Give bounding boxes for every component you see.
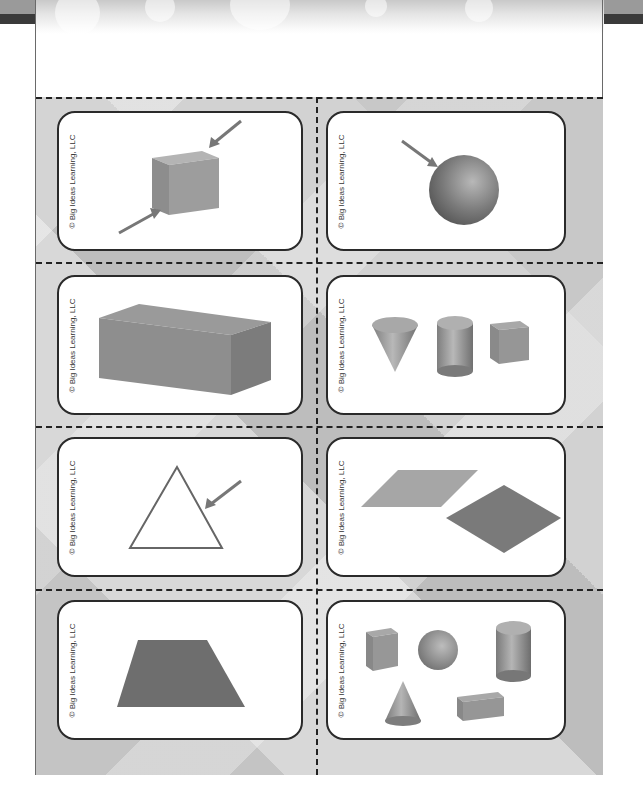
card-rectangular-prism: © Big Ideas Learning, LLC <box>57 275 303 415</box>
cube-vertex-icon <box>59 113 303 251</box>
cut-line-row-3 <box>36 589 603 591</box>
card-sphere-surface: © Big Ideas Learning, LLC <box>326 111 566 251</box>
rhombus-pair-icon <box>328 439 566 577</box>
cut-line-row-1 <box>36 262 603 264</box>
trapezoid-icon <box>59 602 303 740</box>
sphere-surface-icon <box>328 113 566 251</box>
triangle-side-icon <box>59 439 303 577</box>
card-cube-vertices: © Big Ideas Learning, LLC <box>57 111 303 251</box>
right-edge-tab <box>604 0 643 24</box>
three-solids-icon <box>328 277 566 415</box>
card-three-solids: © Big Ideas Learning, LLC <box>326 275 566 415</box>
card-five-solids: © Big Ideas Learning, LLC <box>326 600 566 740</box>
card-triangle-side: © Big Ideas Learning, LLC <box>57 437 303 577</box>
five-solids-icon <box>328 602 566 740</box>
cut-line-center <box>316 97 318 775</box>
cut-line-top <box>36 97 603 99</box>
left-edge-tab <box>0 0 35 24</box>
card-trapezoid: © Big Ideas Learning, LLC <box>57 600 303 740</box>
rectangular-prism-icon <box>59 277 303 415</box>
cut-line-row-2 <box>36 426 603 428</box>
card-rhombus-pair: © Big Ideas Learning, LLC <box>326 437 566 577</box>
